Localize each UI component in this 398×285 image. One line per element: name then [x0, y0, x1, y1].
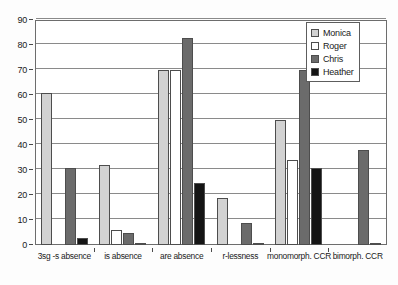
bar	[194, 183, 205, 246]
bar-chart-figure: 0102030405060708090 3sg -s absenceis abs…	[0, 0, 398, 285]
y-tick-mark	[29, 194, 33, 195]
y-tick-label: 90	[17, 15, 27, 25]
legend-swatch-icon	[311, 42, 319, 50]
bar	[287, 160, 298, 245]
bar	[182, 38, 193, 246]
legend-item: Roger	[311, 39, 354, 52]
bar	[311, 168, 322, 246]
bar-group	[211, 20, 270, 245]
legend-label: Heather	[323, 67, 354, 77]
legend-label: Chris	[323, 54, 343, 64]
y-tick-label: 10	[17, 215, 27, 225]
y-tick-label: 70	[17, 65, 27, 75]
y-tick-label: 30	[17, 165, 27, 175]
legend-swatch-icon	[311, 68, 319, 76]
bar	[170, 70, 181, 245]
bar	[111, 230, 122, 245]
x-tick-mark	[328, 248, 329, 252]
bar-group	[35, 20, 94, 245]
chart-legend: MonicaRogerChrisHeather	[306, 22, 360, 82]
bar-group	[94, 20, 153, 245]
y-tick-mark	[29, 169, 33, 170]
y-tick-mark	[29, 94, 33, 95]
legend-item: Heather	[311, 65, 354, 78]
y-tick-label: 0	[22, 240, 27, 250]
y-tick-label: 20	[17, 190, 27, 200]
bar	[253, 243, 264, 246]
x-tick-mark	[270, 248, 271, 252]
bar	[41, 93, 52, 246]
legend-swatch-icon	[311, 55, 319, 63]
gridline	[36, 18, 386, 19]
legend-item: Monica	[311, 26, 354, 39]
y-tick-mark	[29, 44, 33, 45]
y-tick-mark	[29, 69, 33, 70]
bar-group	[152, 20, 211, 245]
y-tick-label: 40	[17, 140, 27, 150]
bar	[135, 243, 146, 246]
bar	[370, 243, 381, 246]
x-tick-label: are absence	[160, 251, 203, 261]
bar	[158, 70, 169, 245]
y-tick-label: 50	[17, 115, 27, 125]
legend-label: Roger	[323, 41, 347, 51]
x-tick-label: bimorph. CCR	[333, 251, 383, 261]
y-axis: 0102030405060708090	[0, 20, 33, 245]
bar	[275, 120, 286, 245]
legend-item: Chris	[311, 52, 354, 65]
bar	[77, 238, 88, 246]
x-tick-label: is absence	[104, 251, 142, 261]
y-tick-mark	[29, 244, 33, 245]
bar	[65, 168, 76, 246]
legend-label: Monica	[323, 28, 351, 38]
x-tick-mark	[211, 248, 212, 252]
x-tick-label: 3sg -s absence	[38, 251, 91, 261]
legend-swatch-icon	[311, 29, 319, 37]
x-tick-mark	[152, 248, 153, 252]
bar	[99, 165, 110, 245]
bar	[241, 223, 252, 246]
bar	[358, 150, 369, 245]
y-tick-mark	[29, 219, 33, 220]
x-tick-mark	[94, 248, 95, 252]
x-tick-label: r-lessness	[222, 251, 258, 261]
bar	[123, 233, 134, 246]
x-tick-label: monomorph. CCR	[267, 251, 331, 261]
x-axis: 3sg -s absenceis absenceare absencer-les…	[35, 248, 387, 268]
y-tick-mark	[29, 119, 33, 120]
y-tick-label: 60	[17, 90, 27, 100]
bar	[299, 70, 310, 245]
y-tick-label: 80	[17, 40, 27, 50]
y-tick-mark	[29, 19, 33, 20]
y-tick-mark	[29, 144, 33, 145]
bar	[217, 198, 228, 246]
